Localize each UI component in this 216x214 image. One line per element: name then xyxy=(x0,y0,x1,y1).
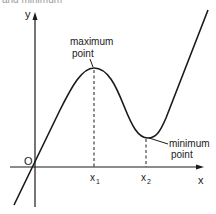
tick-x2: x 2 xyxy=(141,172,151,185)
diagram-canvas: and minimum y x O x 1 x 2 ma xyxy=(0,0,216,214)
caption-fragment: and minimum xyxy=(2,0,62,5)
x-axis xyxy=(10,165,204,170)
tick-x2-sub: 2 xyxy=(147,178,151,185)
x-axis-label: x xyxy=(198,174,204,186)
y-axis-label: y xyxy=(25,8,31,20)
minimum-label-line1: minimum xyxy=(169,138,210,149)
y-axis-arrow-icon xyxy=(33,12,38,20)
maximum-label-line2: point xyxy=(72,48,94,59)
tick-x1-sub: 1 xyxy=(96,178,100,185)
tick-x1-base: x xyxy=(90,172,95,183)
maximum-point-annotation: maximum point xyxy=(70,36,113,67)
maximum-leader-line xyxy=(90,59,93,67)
x-axis-arrow-icon xyxy=(196,165,204,170)
tick-x2-base: x xyxy=(141,172,146,183)
y-axis xyxy=(33,12,38,207)
maximum-label-line1: maximum xyxy=(70,36,113,47)
minimum-label-line2: point xyxy=(171,149,193,160)
minimum-point-annotation: minimum point xyxy=(149,138,210,160)
tick-x1: x 1 xyxy=(90,172,100,185)
minimum-leader-line xyxy=(149,138,168,144)
origin-label: O xyxy=(24,155,33,167)
